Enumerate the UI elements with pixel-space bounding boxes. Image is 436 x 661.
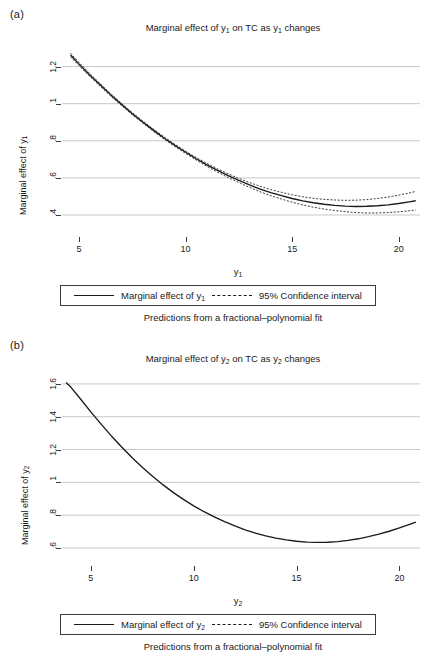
x-axis-tick-label: 20 — [385, 244, 413, 254]
panel-a-title: Marginal effect of y1 on TC as y1 change… — [0, 22, 436, 34]
y-axis-tick: 1.4 — [32, 417, 52, 418]
panel-b-title-prefix: Marginal effect of y — [146, 353, 226, 364]
data-series-line — [71, 57, 416, 213]
panel-a: (a) Marginal effect of y1 on TC as y1 ch… — [0, 0, 436, 330]
panel-a-y-axis-label-sub: 1 — [21, 136, 28, 140]
y-axis-tick: .4 — [32, 215, 52, 216]
x-axis-tick-mark — [194, 566, 195, 571]
x-axis-tick-label: 5 — [65, 244, 93, 254]
panel-a-y-axis-label-text: Marginal effect of y — [18, 139, 28, 215]
panel-b-title-mid: on TC as y — [230, 353, 278, 364]
data-series-line — [71, 55, 416, 206]
y-axis-tick: .6 — [32, 178, 52, 179]
x-axis-tick-mark — [91, 566, 92, 571]
legend-solid-line-swatch — [74, 624, 114, 625]
y-axis-tick-label: 1 — [48, 476, 58, 481]
panel-a-title-suffix: changes — [282, 22, 321, 33]
x-axis-tick-mark — [292, 237, 293, 242]
panel-a-x-axis-title: y1 — [0, 266, 436, 278]
panel-b-y-axis-label: Marginal effect of y2 — [20, 466, 30, 545]
y-axis-tick: 1.2 — [32, 450, 52, 451]
panel-b-legend: Marginal effect of y2 95% Confidence int… — [60, 614, 376, 635]
panel-b-footnote: Predictions from a fractional–polynomial… — [0, 641, 436, 652]
y-axis-tick: 1 — [32, 104, 52, 105]
y-axis-tick: .8 — [32, 141, 52, 142]
panel-b-y-axis-label-sub: 2 — [23, 466, 30, 470]
panel-b-letter: (b) — [10, 339, 24, 351]
legend-dashed-line-swatch — [212, 624, 252, 625]
y-axis-tick-label: .8 — [48, 135, 58, 142]
panel-a-title-prefix: Marginal effect of y — [146, 22, 226, 33]
panel-a-letter: (a) — [10, 8, 24, 20]
x-axis-tick-label: 15 — [278, 244, 306, 254]
x-axis-tick-label: 15 — [283, 573, 311, 583]
panel-a-x-axis-title-sub: 1 — [238, 271, 242, 278]
legend-ci-label: 95% Confidence interval — [259, 619, 362, 630]
panel-b-title: Marginal effect of y2 on TC as y2 change… — [0, 353, 436, 365]
panel-a-y-axis-label: Marginal effect of y1 — [18, 136, 28, 215]
x-axis-tick-mark — [399, 237, 400, 242]
y-axis-tick: 1 — [32, 482, 52, 483]
y-axis-tick-label: 1 — [48, 98, 58, 103]
panel-b-x-axis-title: y2 — [0, 595, 436, 607]
x-axis-tick-mark — [297, 566, 298, 571]
x-axis-tick-label: 5 — [77, 573, 105, 583]
y-axis-tick-label: .6 — [48, 172, 58, 179]
y-axis-tick-label: 1.2 — [48, 61, 58, 73]
y-axis-tick-label: .8 — [48, 509, 58, 516]
panel-b-chart-svg — [62, 379, 420, 557]
legend-ci-label: 95% Confidence interval — [259, 290, 362, 301]
data-series-line — [66, 383, 416, 543]
panel-b-plot-area — [62, 379, 420, 557]
y-axis-tick-mark — [56, 482, 61, 483]
panel-a-footnote: Predictions from a fractional–polynomial… — [0, 312, 436, 323]
x-axis-tick-mark — [399, 566, 400, 571]
x-axis-tick-mark — [79, 237, 80, 242]
panel-a-plot-area — [62, 48, 420, 228]
x-axis-tick-label: 10 — [172, 244, 200, 254]
y-axis-tick-label: .4 — [48, 209, 58, 216]
panel-b-x-axis-title-sub: 2 — [238, 600, 242, 607]
y-axis-tick-label: 1.4 — [48, 411, 58, 423]
legend-series-label: Marginal effect of y1 — [121, 290, 205, 302]
panel-b: (b) Marginal effect of y2 on TC as y2 ch… — [0, 331, 436, 661]
legend-dashed-line-swatch — [212, 295, 252, 296]
x-axis-tick-label: 20 — [385, 573, 413, 583]
panel-b-y-axis-label-text: Marginal effect of y — [20, 469, 30, 545]
y-axis-tick-label: 1.2 — [48, 444, 58, 456]
y-axis-tick-label: 1.6 — [48, 378, 58, 390]
panel-a-chart-svg — [62, 48, 420, 228]
legend-solid-line-swatch — [74, 295, 114, 296]
x-axis-tick-mark — [186, 237, 187, 242]
y-axis-tick-label: .6 — [48, 542, 58, 549]
y-axis-tick-mark — [56, 104, 61, 105]
panel-a-legend: Marginal effect of y1 95% Confidence int… — [60, 285, 376, 306]
y-axis-tick: 1.6 — [32, 384, 52, 385]
panel-a-title-mid: on TC as y — [230, 22, 278, 33]
y-axis-tick: .6 — [32, 548, 52, 549]
panel-b-title-suffix: changes — [282, 353, 321, 364]
legend-series-label: Marginal effect of y2 — [121, 619, 205, 631]
x-axis-tick-label: 10 — [180, 573, 208, 583]
y-axis-tick: .8 — [32, 515, 52, 516]
y-axis-tick: 1.2 — [32, 67, 52, 68]
